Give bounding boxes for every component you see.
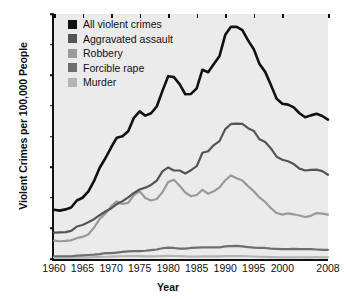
legend-label: Robbery (83, 47, 123, 59)
legend-swatch-icon (68, 20, 77, 29)
legend-swatch-icon (68, 49, 77, 58)
series-line (54, 256, 328, 258)
legend-label: Murder (83, 76, 116, 88)
legend-swatch-icon (68, 34, 77, 43)
x-axis-tick-label: 2008 (306, 262, 344, 274)
legend-item-forcible-rape: Forcible rape (68, 62, 173, 74)
legend-label: Aggravated assault (83, 33, 173, 45)
legend-label: All violent crimes (83, 18, 162, 30)
legend-swatch-icon (68, 63, 77, 72)
legend-item-all-violent-crimes: All violent crimes (68, 18, 173, 30)
x-axis-tick-mark (328, 14, 330, 18)
legend-item-aggravated-assault: Aggravated assault (68, 33, 173, 45)
x-axis-tick-label: 2000 (260, 262, 304, 274)
legend-label: Forcible rape (83, 62, 144, 74)
legend-item-robbery: Robbery (68, 47, 173, 59)
plot-area: 0100200300400500600700800 19601965197019… (52, 14, 328, 261)
chart-legend: All violent crimes Aggravated assault Ro… (68, 18, 173, 88)
y-axis-title: Violent Crimes per 100,000 People (17, 11, 29, 241)
legend-swatch-icon (68, 78, 77, 87)
series-line (54, 175, 328, 241)
x-axis-title: Year (0, 281, 336, 293)
series-line (54, 246, 328, 256)
legend-item-murder: Murder (68, 76, 173, 88)
